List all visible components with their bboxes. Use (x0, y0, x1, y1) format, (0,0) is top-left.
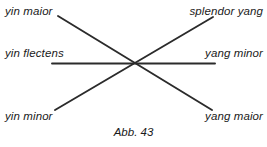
diagram-lines (0, 0, 267, 147)
label-yin-maior: yin maior (5, 5, 53, 18)
label-yang-minor: yang minor (205, 47, 263, 60)
figure-abb-43: yin maior splendor yang yin flectens yan… (0, 0, 267, 147)
label-yin-flectens: yin flectens (5, 47, 64, 60)
label-splendor-yang: splendor yang (189, 5, 263, 18)
figure-caption: Abb. 43 (0, 126, 267, 138)
label-yang-maior: yang maior (205, 110, 263, 123)
label-yin-minor: yin minor (5, 110, 53, 123)
